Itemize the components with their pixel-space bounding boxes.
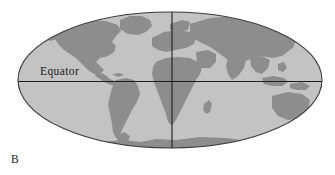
landmass-new-zealand [315,112,323,122]
equator-label: Equator [40,66,79,78]
world-map-graphic [0,0,335,175]
figure-panel: Equator B [0,0,335,175]
panel-label: B [11,154,19,166]
